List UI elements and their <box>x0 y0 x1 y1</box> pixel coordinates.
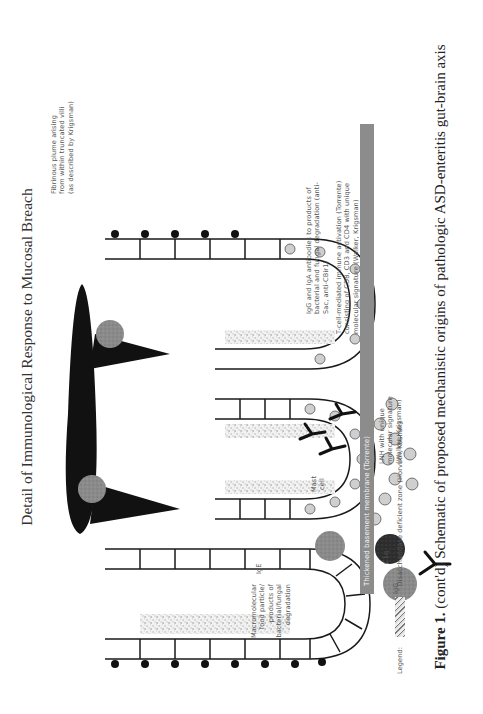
basement-membrane-label: Thickened basement membrane (Torrente) <box>363 436 371 586</box>
figure-caption: Figure 1. (cont'd) Schematic of proposed… <box>432 0 449 714</box>
legend-item-text: Disaccharidase deficient zone (Horvath, … <box>396 422 404 587</box>
villus-left <box>105 549 370 659</box>
note-c1q: C1q <box>382 551 390 564</box>
note-t-cell: T-cell-mediated immune activation (Torre… <box>335 134 360 334</box>
note-fibrinous-plume: Fibrinous plume arising from within trun… <box>50 14 75 194</box>
food-particle <box>315 531 345 561</box>
legend: Legend: Disaccharidase deficient zone (H… <box>395 374 405 674</box>
note-ige: IgE <box>255 544 263 574</box>
caption-text: (cont'd) Schematic of proposed mechanist… <box>432 44 448 608</box>
legend-swatch-stipple <box>395 597 405 637</box>
goblet-dots-right <box>111 230 239 238</box>
legend-label: Legend: <box>396 647 404 674</box>
note-igg-iga: IgG and IgA antibodies to products of ba… <box>305 134 330 314</box>
basement-membrane-bar: Thickened basement membrane (Torrente) <box>360 124 374 594</box>
villus-middle <box>215 399 375 519</box>
note-mast-cell: Mast cell <box>310 464 327 504</box>
figure-stage: Detail of Immunological Response to Muco… <box>0 0 483 714</box>
caption-label: Figure 1. <box>432 612 448 669</box>
note-macromolecular: Macromolecular food particle/ products o… <box>250 584 292 674</box>
